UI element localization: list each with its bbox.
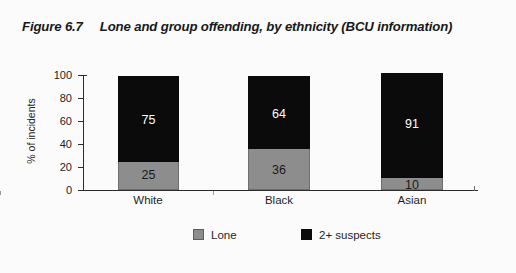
y-tick-mark-60 xyxy=(78,121,84,122)
y-tick-label-100: 100 xyxy=(42,70,72,81)
x-tick-mark-1 xyxy=(213,191,214,195)
y-tick-mark-40 xyxy=(78,144,84,145)
bar-asian: 91 10 xyxy=(381,73,443,190)
legend-item-multi-suspects[interactable]: 2+ suspects xyxy=(301,225,381,239)
bar-black-label-lone: 36 xyxy=(248,164,310,177)
legend-item-lone[interactable]: Lone xyxy=(193,225,237,239)
bar-white-label-lone: 25 xyxy=(118,169,179,182)
y-tick-label-80: 80 xyxy=(42,93,72,104)
y-axis-line xyxy=(83,75,84,191)
y-tick-label-60: 60 xyxy=(42,116,72,127)
y-tick-label-20: 20 xyxy=(42,162,72,173)
x-axis-end-tick xyxy=(474,186,475,191)
bar-black-label-multi: 64 xyxy=(248,108,310,121)
y-tick-mark-100 xyxy=(78,75,84,76)
y-axis-title: % of incidents xyxy=(25,86,37,176)
y-tick-mark-80 xyxy=(78,98,84,99)
chart-legend: Lone 2+ suspects xyxy=(0,225,516,243)
bar-asian-label-multi: 91 xyxy=(381,118,443,131)
legend-label-multi-suspects: 2+ suspects xyxy=(319,229,381,241)
x-category-label-black: Black xyxy=(219,195,339,207)
legend-label-lone: Lone xyxy=(211,229,237,241)
x-category-label-white: White xyxy=(88,195,208,207)
figure-container: Figure 6.7Lone and group offending, by e… xyxy=(0,0,516,273)
bar-black: 64 36 xyxy=(248,76,310,190)
black-square-icon xyxy=(301,229,312,240)
y-tick-mark-20 xyxy=(78,167,84,168)
y-tick-label-40: 40 xyxy=(42,139,72,150)
gray-square-icon xyxy=(193,229,204,240)
x-category-label-asian: Asian xyxy=(352,195,472,207)
x-tick-mark-2 xyxy=(0,191,1,195)
bar-white: 75 25 xyxy=(118,76,179,190)
bar-asian-label-lone: 10 xyxy=(381,179,443,192)
y-tick-mark-0 xyxy=(78,190,84,191)
bar-white-label-multi: 75 xyxy=(118,114,179,127)
y-tick-label-0: 0 xyxy=(42,185,72,196)
